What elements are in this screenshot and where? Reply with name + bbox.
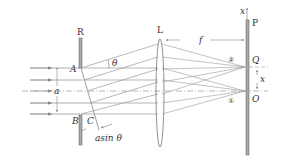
- path-difference-dimension: [81, 124, 112, 131]
- point-q-label: Q: [252, 55, 260, 65]
- ray-bundle-2-label: ②: [228, 56, 234, 64]
- point-c-label: C: [87, 116, 94, 126]
- point-o-label: O: [252, 94, 260, 104]
- path-difference-label: asin θ: [95, 133, 123, 143]
- slit-screen-label: R: [77, 27, 84, 37]
- point-a-label: A: [69, 64, 77, 74]
- lens: [156, 39, 164, 147]
- slit-width-label: a: [54, 86, 59, 96]
- diffraction-diagram: a R A B C asin θ θ L: [0, 0, 282, 162]
- observation-screen: [246, 20, 249, 155]
- point-b-label: B: [71, 116, 79, 126]
- focal-length-label: f: [198, 35, 204, 45]
- diffracted-rays: [81, 44, 158, 114]
- displacement-label: x: [260, 74, 265, 84]
- x-axis-label: x: [240, 6, 245, 16]
- lens-label: L: [157, 25, 163, 35]
- angle-label: θ: [112, 58, 118, 68]
- slit-screen: [79, 38, 82, 145]
- ray-bundle-1-label: ①: [228, 97, 234, 105]
- angle-arc: [108, 60, 109, 68]
- screen-label: P: [252, 18, 258, 28]
